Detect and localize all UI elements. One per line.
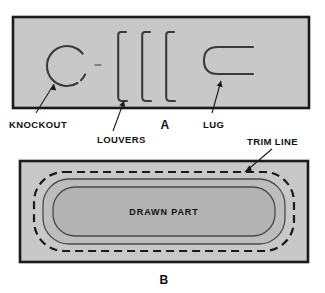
- panel-a: [13, 17, 309, 108]
- technical-diagram-figure: KNOCKOUT LOUVERS LUG A TRIM LINE DRAWN P…: [0, 0, 325, 293]
- panel-a-plate: [13, 17, 309, 108]
- panel-b: DRAWN PART: [20, 161, 308, 262]
- panel-a-caption: A: [160, 118, 169, 132]
- callout-label-lug: LUG: [203, 119, 224, 130]
- callout-label-trim-line: TRIM LINE: [247, 136, 298, 147]
- drawn-part-label: DRAWN PART: [129, 207, 198, 217]
- diagram-canvas: KNOCKOUT LOUVERS LUG A TRIM LINE DRAWN P…: [0, 0, 325, 293]
- panel-b-caption: B: [159, 273, 168, 287]
- callout-label-louvers: LOUVERS: [97, 134, 146, 145]
- callout-label-knockout: KNOCKOUT: [9, 119, 67, 130]
